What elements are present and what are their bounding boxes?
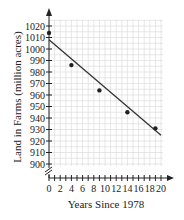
y-tick-label: 980 — [30, 67, 45, 78]
x-tick-label: 18 — [145, 183, 155, 194]
x-tick-label: 12 — [111, 183, 121, 194]
data-point — [153, 126, 157, 130]
y-tick-label: 960 — [30, 90, 45, 101]
data-point — [69, 63, 73, 67]
axes — [45, 8, 174, 181]
x-tick-label: 2 — [58, 183, 63, 194]
y-tick-label: 940 — [30, 113, 45, 124]
x-axis-arrow-icon — [167, 175, 174, 181]
y-tick-label: 930 — [30, 124, 45, 135]
x-axis-title: Years Since 1978 — [68, 198, 145, 210]
y-axis-title: Land in Farms (million acres) — [11, 31, 24, 163]
y-tick-label: 900 — [30, 159, 45, 170]
x-tick-label: 14 — [122, 183, 132, 194]
y-tick-label: 990 — [30, 55, 45, 66]
y-tick-label: 1000 — [25, 44, 45, 55]
y-tick-label: 910 — [30, 147, 45, 158]
x-tick-label: 6 — [80, 183, 85, 194]
data-point — [125, 110, 129, 114]
x-tick-label: 8 — [91, 183, 96, 194]
x-tick-label: 10 — [100, 183, 110, 194]
y-tick-label: 950 — [30, 101, 45, 112]
y-tick-label: 920 — [30, 136, 45, 147]
grid — [49, 20, 163, 166]
y-tick-label: 970 — [30, 78, 45, 89]
x-tick-label: 0 — [47, 183, 52, 194]
data-point — [47, 31, 51, 35]
y-tick-label: 1020 — [25, 21, 45, 32]
y-axis-ticks: 9009109209309409509609709809901000101010… — [25, 21, 52, 170]
data-point — [97, 88, 101, 92]
x-tick-label: 16 — [134, 183, 144, 194]
data-points — [47, 31, 158, 131]
scatter-chart: 9009109209309409509609709809901000101010… — [0, 0, 184, 220]
x-tick-label: 20 — [156, 183, 166, 194]
y-axis-arrow-icon — [46, 8, 52, 16]
y-tick-label: 1010 — [25, 32, 45, 43]
x-tick-label: 4 — [69, 183, 74, 194]
